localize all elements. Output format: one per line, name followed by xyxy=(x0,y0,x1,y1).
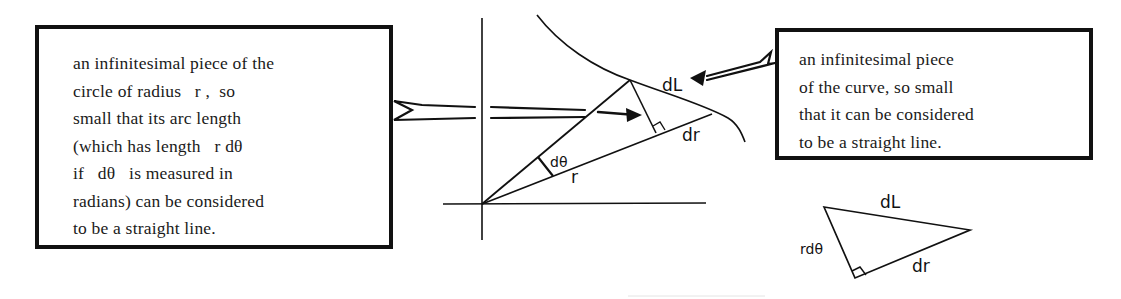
right-note-line: that it can be considered xyxy=(799,101,1089,129)
polar-arc-length-diagram: dL dr dθ r dL dr rdθ an infinitesimal pi… xyxy=(0,0,1121,299)
left-note-line: circle of radius r , so xyxy=(73,78,389,106)
small-label-dr: dr xyxy=(912,256,930,276)
small-label-dL: dL xyxy=(880,192,901,212)
right-note-line: an infinitesimal piece xyxy=(799,46,1089,74)
label-r: r xyxy=(571,167,578,187)
small-label-rdtheta: rdθ xyxy=(800,241,823,257)
left-note-line: if dθ is measured in xyxy=(73,160,389,188)
label-dL: dL xyxy=(662,75,683,95)
small-triangle xyxy=(824,207,970,278)
right-arrow-head xyxy=(690,70,706,86)
left-note-line: an infinitesimal piece of the xyxy=(73,50,389,78)
ray-lower-r xyxy=(482,114,712,204)
right-explanation-box: an infinitesimal piece of the curve, so … xyxy=(775,28,1093,160)
left-note-line: to be a straight line. xyxy=(73,215,389,243)
right-note-line: of the curve, so small xyxy=(799,74,1089,102)
label-dr: dr xyxy=(682,125,700,145)
left-explanation-box: an infinitesimal piece of the circle of … xyxy=(35,25,393,249)
left-callout-arrow xyxy=(394,101,636,120)
label-dtheta: dθ xyxy=(550,154,567,170)
left-arrow-head xyxy=(626,108,642,122)
ray-upper xyxy=(482,80,630,204)
right-note-line: to be a straight line. xyxy=(799,129,1089,157)
left-note-line: small that its arc length xyxy=(73,105,389,133)
left-note-line: radians) can be considered xyxy=(73,188,389,216)
left-note-line: (which has length r dθ xyxy=(73,133,389,161)
right-callout-arrow xyxy=(707,52,775,80)
